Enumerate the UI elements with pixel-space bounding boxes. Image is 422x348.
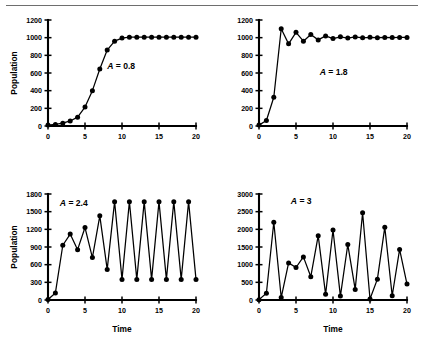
data-point-marker bbox=[75, 247, 80, 252]
data-point-marker bbox=[127, 199, 132, 204]
data-point-marker bbox=[331, 36, 336, 41]
x-tick-label: 10 bbox=[118, 307, 126, 315]
data-point-marker bbox=[308, 32, 313, 37]
data-point-marker bbox=[60, 243, 65, 248]
x-tick-label: 20 bbox=[192, 307, 200, 315]
data-point-marker bbox=[368, 296, 373, 301]
x-tick-label: 10 bbox=[329, 133, 337, 141]
y-tick-label: 3000 bbox=[237, 191, 253, 199]
y-tick-label: 0 bbox=[38, 297, 42, 305]
data-point-marker bbox=[353, 34, 358, 39]
x-tick-label: 0 bbox=[46, 307, 50, 315]
annotation-variable: A bbox=[106, 61, 113, 71]
data-point-marker bbox=[286, 260, 291, 265]
data-point-marker bbox=[120, 36, 125, 41]
x-tick-label: 15 bbox=[155, 133, 163, 141]
plot-A-0.8: 02004006008001000120005101520PopulationA… bbox=[0, 0, 211, 174]
plot-A-3: 05001000150020002500300005101520TimeA = … bbox=[211, 174, 422, 348]
data-point-marker bbox=[97, 213, 102, 218]
data-point-marker bbox=[186, 35, 191, 40]
x-tick-label: 10 bbox=[118, 133, 126, 141]
data-point-marker bbox=[68, 232, 73, 237]
y-tick-label: 300 bbox=[30, 279, 42, 287]
annotation-variable: A bbox=[290, 196, 297, 206]
data-point-marker bbox=[286, 41, 291, 46]
data-point-marker bbox=[390, 35, 395, 40]
data-point-marker bbox=[294, 265, 299, 270]
chart-panel-a-0-8: 02004006008001000120005101520PopulationA… bbox=[0, 0, 211, 174]
data-point-marker bbox=[360, 210, 365, 215]
x-tick-label: 0 bbox=[257, 133, 261, 141]
x-axis-title: Time bbox=[112, 324, 132, 334]
y-tick-label: 400 bbox=[30, 87, 42, 95]
panel-annotation: A = 1.8 bbox=[319, 67, 348, 77]
data-point-marker bbox=[264, 291, 269, 296]
data-point-marker bbox=[105, 267, 110, 272]
data-point-marker bbox=[271, 220, 276, 225]
y-axis-title: Population bbox=[9, 225, 19, 268]
data-point-marker bbox=[360, 35, 365, 40]
data-point-marker bbox=[382, 35, 387, 40]
plot-A-1.8: 02004006008001000120005101520A = 1.8 bbox=[211, 0, 422, 174]
data-point-marker bbox=[279, 26, 284, 31]
x-tick-label: 15 bbox=[366, 133, 374, 141]
figure-population-dynamics: 02004006008001000120005101520PopulationA… bbox=[0, 0, 422, 348]
x-tick-label: 5 bbox=[83, 307, 87, 315]
data-point-marker bbox=[179, 277, 184, 282]
data-point-marker bbox=[368, 35, 373, 40]
x-tick-label: 20 bbox=[192, 133, 200, 141]
data-point-marker bbox=[308, 274, 313, 279]
data-point-marker bbox=[83, 225, 88, 230]
data-point-marker bbox=[186, 199, 191, 204]
data-point-marker bbox=[345, 242, 350, 247]
data-point-marker bbox=[382, 225, 387, 230]
y-tick-label: 1500 bbox=[26, 208, 42, 216]
data-point-marker bbox=[142, 35, 147, 40]
y-axis-title: Population bbox=[9, 51, 19, 94]
annotation-value: = 2.4 bbox=[66, 198, 88, 208]
data-point-marker bbox=[157, 35, 162, 40]
chart-panel-a-1-8: 02004006008001000120005101520A = 1.8 bbox=[211, 0, 422, 174]
data-point-marker bbox=[120, 277, 125, 282]
data-point-marker bbox=[331, 228, 336, 233]
data-point-marker bbox=[338, 34, 343, 39]
data-point-marker bbox=[105, 48, 110, 53]
y-tick-label: 1500 bbox=[237, 244, 253, 252]
annotation-value: = 3 bbox=[297, 196, 312, 206]
y-tick-label: 0 bbox=[249, 123, 253, 131]
y-tick-label: 1000 bbox=[237, 261, 253, 269]
data-point-marker bbox=[157, 199, 162, 204]
annotation-variable: A bbox=[59, 198, 66, 208]
x-tick-label: 5 bbox=[83, 133, 87, 141]
data-point-marker bbox=[149, 277, 154, 282]
data-point-marker bbox=[112, 39, 117, 44]
series-line bbox=[48, 202, 196, 300]
y-tick-label: 400 bbox=[241, 87, 253, 95]
data-point-marker bbox=[405, 282, 410, 287]
x-tick-label: 15 bbox=[155, 307, 163, 315]
data-point-marker bbox=[264, 118, 269, 123]
data-point-marker bbox=[97, 67, 102, 72]
data-point-marker bbox=[405, 35, 410, 40]
annotation-variable: A bbox=[319, 67, 326, 77]
y-tick-label: 800 bbox=[30, 52, 42, 60]
y-tick-label: 200 bbox=[30, 105, 42, 113]
data-point-marker bbox=[257, 123, 262, 128]
data-point-marker bbox=[194, 35, 199, 40]
data-point-marker bbox=[46, 123, 51, 128]
y-tick-label: 800 bbox=[241, 52, 253, 60]
data-point-marker bbox=[345, 36, 350, 41]
y-tick-label: 1200 bbox=[237, 17, 253, 25]
data-point-marker bbox=[134, 277, 139, 282]
data-point-marker bbox=[112, 199, 117, 204]
y-tick-label: 1000 bbox=[237, 34, 253, 42]
data-point-marker bbox=[353, 287, 358, 292]
y-tick-label: 1200 bbox=[26, 17, 42, 25]
x-tick-label: 5 bbox=[294, 307, 298, 315]
series-line bbox=[48, 37, 196, 125]
data-point-marker bbox=[390, 293, 395, 298]
data-point-marker bbox=[179, 35, 184, 40]
annotation-value: = 0.8 bbox=[113, 61, 135, 71]
x-tick-label: 0 bbox=[46, 133, 50, 141]
data-point-marker bbox=[164, 35, 169, 40]
